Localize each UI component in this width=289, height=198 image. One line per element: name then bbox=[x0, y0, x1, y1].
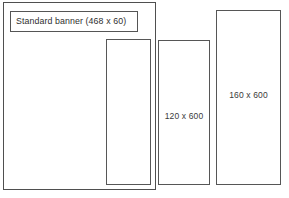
standard-banner-label: Standard banner (468 x 60) bbox=[16, 17, 126, 26]
inner-skyscraper-box bbox=[106, 39, 151, 185]
skyscraper-160-label: 160 x 600 bbox=[217, 91, 280, 100]
skyscraper-120-label: 120 x 600 bbox=[159, 112, 209, 121]
skyscraper-160-box: 160 x 600 bbox=[216, 10, 281, 185]
diagram-canvas: Standard banner (468 x 60) 120 x 600 160… bbox=[0, 0, 289, 198]
standard-banner-box: Standard banner (468 x 60) bbox=[10, 11, 138, 32]
skyscraper-120-box: 120 x 600 bbox=[158, 40, 210, 185]
page-area-container: Standard banner (468 x 60) bbox=[3, 2, 156, 190]
